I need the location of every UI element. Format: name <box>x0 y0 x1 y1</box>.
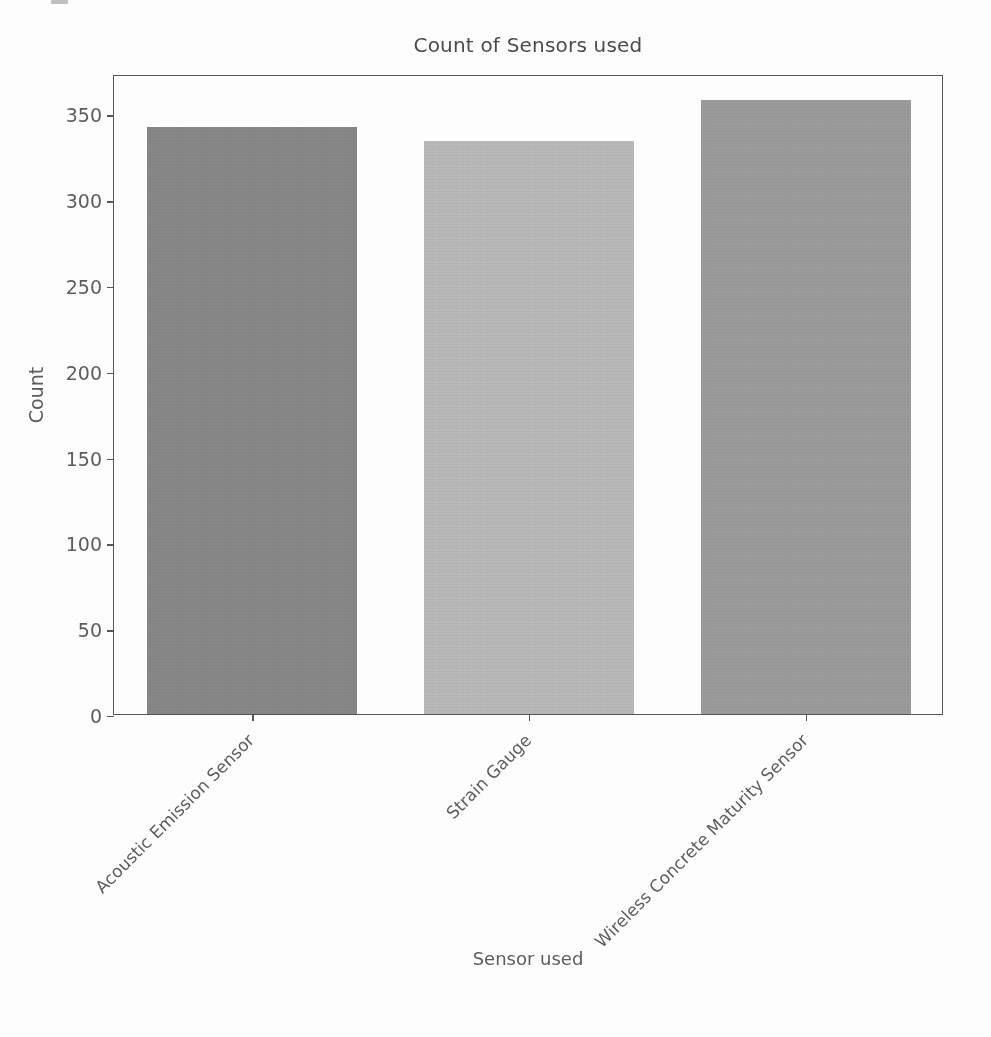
bar <box>147 127 357 714</box>
y-axis-tick-mark <box>107 630 114 631</box>
y-axis-tick-label: 350 <box>66 104 102 126</box>
bar <box>424 141 634 714</box>
x-axis-label: Sensor used <box>113 948 943 969</box>
x-axis-tick-label: Wireless Concrete Maturity Sensor <box>590 730 811 951</box>
x-axis-tick-label: Acoustic Emission Sensor <box>91 730 258 897</box>
bar-texture <box>147 127 357 714</box>
plot-inner: 050100150200250300350Acoustic Emission S… <box>114 76 942 714</box>
y-axis-tick-mark <box>107 544 114 545</box>
y-axis-tick-label: 150 <box>66 448 102 470</box>
y-axis-tick-mark <box>107 115 114 116</box>
plot-area: 050100150200250300350Acoustic Emission S… <box>113 75 943 715</box>
y-axis-tick-mark <box>107 373 114 374</box>
bar-texture <box>701 100 911 714</box>
y-axis-tick-label: 250 <box>66 276 102 298</box>
scan-artifact-speck <box>51 0 68 4</box>
x-axis-tick-mark <box>529 714 530 721</box>
bar <box>701 100 911 714</box>
y-axis-label: Count <box>25 367 47 423</box>
bar-texture <box>424 141 634 714</box>
y-axis-tick-mark <box>107 716 114 717</box>
x-axis-tick-label: Strain Gauge <box>442 730 535 823</box>
y-axis-tick-label: 200 <box>66 362 102 384</box>
y-axis-tick-mark <box>107 287 114 288</box>
x-axis-tick-mark <box>806 714 807 721</box>
chart-figure: Count of Sensors used Count 050100150200… <box>0 0 991 1037</box>
y-axis-tick-mark <box>107 459 114 460</box>
x-axis-tick-mark <box>252 714 253 721</box>
y-axis-tick-label: 50 <box>78 619 102 641</box>
chart-title: Count of Sensors used <box>113 33 943 57</box>
y-axis-tick-label: 0 <box>90 705 102 727</box>
y-axis-tick-mark <box>107 201 114 202</box>
y-axis-tick-label: 100 <box>66 533 102 555</box>
y-axis-tick-label: 300 <box>66 190 102 212</box>
